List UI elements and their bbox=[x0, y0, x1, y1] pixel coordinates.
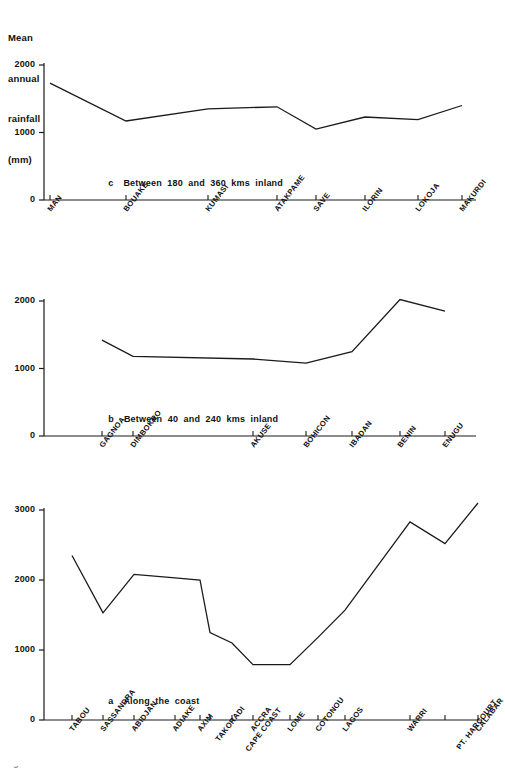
y-tick-label: 2000 bbox=[0, 59, 35, 69]
chart-a-caption-letter: a bbox=[108, 696, 113, 706]
chart-a-plot bbox=[0, 500, 493, 784]
y-tick-label: 2000 bbox=[0, 574, 35, 584]
chart-c-data-line bbox=[50, 83, 462, 129]
y-tick-label: 0 bbox=[0, 194, 35, 204]
figure-footer-text: Fig 2.6 Mean annual rainfall at selected… bbox=[6, 766, 197, 768]
figure-footer: Fig 2.6 Mean annual rainfall at selected… bbox=[0, 766, 493, 784]
chart-panel-c: 010002000 MANBOUAKEKUMASIATAKPAMESAVEILO… bbox=[0, 0, 493, 255]
y-tick-label: 0 bbox=[0, 430, 35, 440]
y-tick-label: 3000 bbox=[0, 504, 35, 514]
chart-a-caption: aAlong the coast bbox=[92, 686, 199, 716]
y-tick-label: 0 bbox=[0, 714, 35, 724]
chart-b-plot bbox=[0, 260, 493, 495]
chart-c-plot bbox=[0, 0, 493, 255]
chart-a-y-ticks bbox=[39, 510, 44, 720]
chart-c-caption: cBetween 180 and 360 kms inland bbox=[92, 168, 283, 198]
y-tick-label: 1000 bbox=[0, 127, 35, 137]
chart-a-data-line bbox=[72, 503, 478, 665]
y-tick-label: 2000 bbox=[0, 295, 35, 305]
chart-b-y-ticks bbox=[39, 301, 44, 436]
chart-panel-a: 0100020003000 TABOUSASSANDRAABIDJANADIAK… bbox=[0, 500, 493, 784]
chart-b-data-line bbox=[102, 300, 445, 364]
chart-c-caption-letter: c bbox=[108, 178, 113, 188]
chart-b-caption: bBetween 40 and 240 kms inland bbox=[92, 404, 278, 434]
chart-c-caption-text: Between 180 and 360 kms inland bbox=[123, 178, 283, 188]
y-tick-label: 1000 bbox=[0, 363, 35, 373]
chart-c-y-ticks bbox=[39, 65, 44, 200]
chart-a-caption-text: Along the coast bbox=[123, 696, 199, 706]
chart-b-caption-text: Between 40 and 240 kms inland bbox=[124, 414, 278, 424]
chart-b-caption-letter: b bbox=[108, 414, 114, 424]
chart-panel-b: 010002000 GAGNOADIMBOKROAKUSEBOHICONIBAD… bbox=[0, 260, 493, 495]
y-tick-label: 1000 bbox=[0, 644, 35, 654]
